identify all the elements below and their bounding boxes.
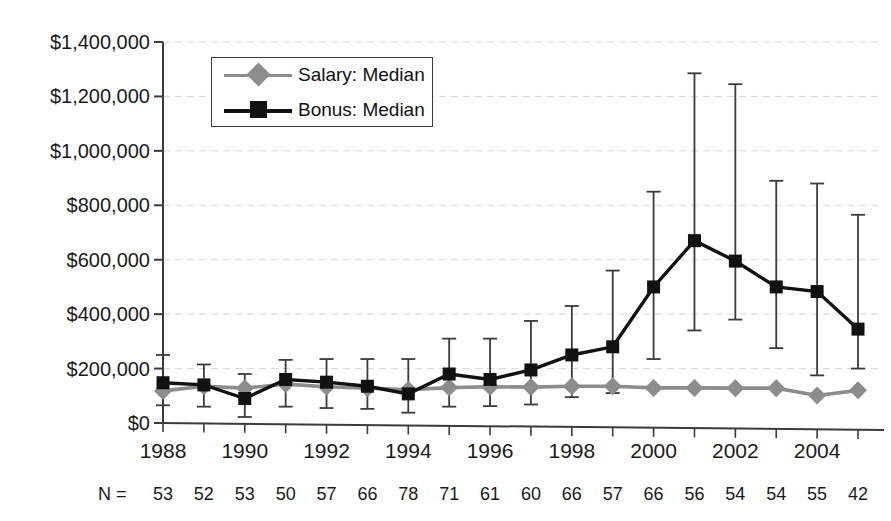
legend-swatch-bonus [224, 93, 292, 128]
data-point-diamond [563, 377, 581, 395]
n-value: 53 [223, 485, 267, 503]
data-point-square [197, 378, 210, 391]
data-point-square [238, 392, 251, 405]
x-axis-tick-label: 1996 [445, 440, 535, 461]
data-point-square [565, 348, 578, 361]
chart-figure: $0$200,000$400,000$600,000$800,000$1,000… [0, 0, 891, 521]
legend-label-bonus: Bonus: Median [298, 100, 425, 120]
data-point-square [361, 380, 374, 393]
data-point-square [279, 373, 292, 386]
data-point-square [729, 255, 742, 268]
n-value: 42 [836, 485, 880, 503]
data-point-square [606, 340, 619, 353]
x-axis-line [161, 423, 884, 430]
legend-swatch-salary [224, 58, 292, 93]
n-value: 50 [264, 485, 308, 503]
n-value: 61 [468, 485, 512, 503]
data-point-diamond [645, 379, 663, 397]
data-point-diamond [849, 381, 867, 399]
data-point-diamond [767, 379, 785, 397]
diamond-marker-icon [246, 62, 270, 86]
x-axis-tick-label: 2004 [772, 440, 862, 461]
data-point-diamond [440, 379, 458, 397]
x-axis-tick-label: 1988 [118, 440, 208, 461]
data-point-diamond [726, 379, 744, 397]
data-point-square [852, 323, 865, 336]
n-value: 55 [795, 485, 839, 503]
data-point-square [811, 285, 824, 298]
square-marker-icon [250, 101, 267, 118]
n-value: 54 [713, 485, 757, 503]
data-point-diamond [522, 378, 540, 396]
n-value: 71 [427, 485, 471, 503]
legend-item-bonus-median: Bonus: Median [212, 93, 432, 128]
n-value: 56 [672, 485, 716, 503]
n-prefix-label: N = [98, 485, 127, 503]
data-point-square [484, 373, 497, 386]
x-axis-tick-label: 1994 [363, 440, 453, 461]
x-axis-tick-label: 1998 [527, 440, 617, 461]
n-value: 57 [591, 485, 635, 503]
n-value: 66 [632, 485, 676, 503]
x-axis-tick-label: 1992 [282, 440, 372, 461]
data-point-square [402, 387, 415, 400]
data-point-square [524, 363, 537, 376]
chart-legend: Salary: Median Bonus: Median [211, 57, 433, 127]
n-value: 66 [550, 485, 594, 503]
x-axis-tick-label: 2002 [690, 440, 780, 461]
data-point-square [770, 280, 783, 293]
data-point-square [647, 280, 660, 293]
x-axis-tick-label: 1990 [200, 440, 290, 461]
data-point-square [688, 234, 701, 247]
data-point-square [443, 368, 456, 381]
data-point-diamond [685, 379, 703, 397]
x-axis-tick-label: 2000 [609, 440, 699, 461]
n-value: 78 [386, 485, 430, 503]
n-value: 52 [182, 485, 226, 503]
legend-label-salary: Salary: Median [298, 65, 425, 85]
n-value: 66 [345, 485, 389, 503]
series-line-bonus [163, 241, 858, 399]
data-point-diamond [808, 387, 826, 405]
data-point-square [157, 376, 170, 389]
legend-item-salary-median: Salary: Median [212, 58, 432, 93]
n-value: 53 [141, 485, 185, 503]
n-value: 60 [509, 485, 553, 503]
n-value: 57 [305, 485, 349, 503]
data-point-square [320, 376, 333, 389]
n-value: 54 [754, 485, 798, 503]
